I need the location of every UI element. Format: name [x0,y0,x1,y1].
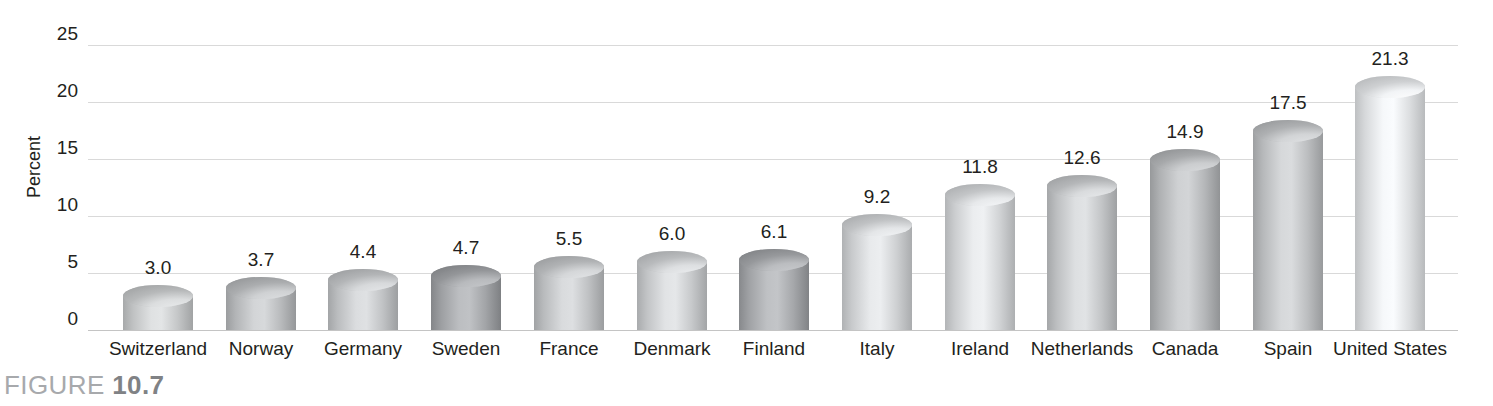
bar-body [1355,87,1425,330]
bar-value-label: 14.9 [1130,122,1240,141]
bar-value-label: 6.1 [719,222,829,241]
y-axis-tick-label: 15 [38,138,78,157]
bar-top-cavity [637,251,707,273]
bar-top-ellipse [1150,149,1220,171]
bar-top-cavity [1253,120,1323,142]
bar-body [945,195,1015,330]
y-axis-tick-label: 5 [38,252,78,271]
bar[interactable] [945,184,1015,330]
bar[interactable] [637,251,707,330]
figure-caption-number: 10.7 [112,370,164,400]
axis-baseline [88,330,1458,331]
y-axis-tick-label: 25 [38,24,78,43]
bar-top-cavity [1150,149,1220,171]
bar-value-label: 5.5 [514,229,624,248]
bar-top-cavity [842,214,912,236]
bar-top-ellipse [123,285,193,307]
bar-top-ellipse [226,277,296,299]
bar-value-label: 4.7 [411,238,521,257]
y-axis-tick-label: 0 [38,309,78,328]
bar[interactable] [1355,76,1425,330]
bar-top-ellipse [637,251,707,273]
bar-top-ellipse [842,214,912,236]
bar[interactable] [842,214,912,330]
bar-body [842,225,912,330]
bar-value-label: 11.8 [925,157,1035,176]
bar[interactable] [431,265,501,330]
bar-value-label: 12.6 [1027,148,1137,167]
bar-value-label: 4.4 [308,242,418,261]
bar[interactable] [226,277,296,330]
bar[interactable] [1253,120,1323,331]
y-axis-tick-label: 10 [38,195,78,214]
bar[interactable] [1150,149,1220,330]
x-axis-category-label: United States [1300,338,1480,360]
bar-top-cavity [123,285,193,307]
bar-top-ellipse [328,269,398,291]
figure-caption: FIGURE 10.7 [4,370,164,400]
bar-top-cavity [328,269,398,291]
bar-top-cavity [226,277,296,299]
bar-top-ellipse [1253,120,1323,142]
bar-body [1253,131,1323,331]
bar-value-label: 3.7 [206,250,316,269]
bar[interactable] [123,285,193,330]
gridline [88,45,1458,46]
y-axis-tick-label: 20 [38,81,78,100]
bar[interactable] [328,269,398,330]
bar[interactable] [534,256,604,330]
bar-value-label: 3.0 [103,258,213,277]
figure-container: Percent 2520151050 3.03.74.44.75.56.06.1… [0,0,1493,406]
bar[interactable] [739,249,809,330]
figure-caption-prefix: FIGURE [4,370,105,400]
bar-value-label: 17.5 [1233,93,1343,112]
bar-chart: Percent 2520151050 3.03.74.44.75.56.06.1… [0,0,1493,360]
bar-body [1150,160,1220,330]
bar-body [1047,186,1117,330]
bar-value-label: 21.3 [1335,49,1445,68]
bar[interactable] [1047,175,1117,330]
bar-value-label: 6.0 [617,224,727,243]
bar-value-label: 9.2 [822,187,932,206]
